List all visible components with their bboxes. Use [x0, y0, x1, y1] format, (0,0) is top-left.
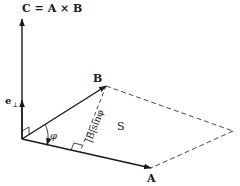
right-angle-marker-foot [71, 143, 82, 150]
label-area-s: S [117, 120, 125, 133]
angle-arc-phi [45, 124, 48, 145]
label-e-perp-subscript: ⊥ [12, 101, 19, 109]
label-height: |B|sinφ [83, 108, 107, 144]
right-angle-marker-origin [22, 127, 29, 135]
parallelogram-edge-right [151, 131, 233, 168]
label-phi: φ [50, 130, 57, 141]
vector-a [22, 139, 151, 168]
label-b: B [93, 72, 102, 85]
parallelogram-edge-top [106, 86, 233, 131]
label-a: A [146, 172, 156, 185]
label-c-equation: C = A × B [22, 2, 82, 15]
cross-product-diagram: C = A × B B A e ⊥ φ S |B|sinφ [0, 0, 240, 186]
label-e-perp: e [5, 95, 11, 106]
